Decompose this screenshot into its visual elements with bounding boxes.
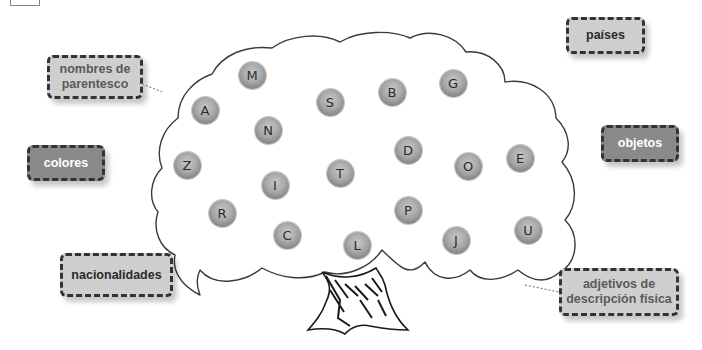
letter-ball-l[interactable]: L (344, 232, 371, 259)
letter-ball-n[interactable]: N (255, 117, 282, 144)
letter: B (388, 85, 397, 100)
letter-ball-o[interactable]: O (455, 153, 482, 180)
letter: G (448, 76, 458, 91)
letter: O (463, 159, 473, 174)
category-label: nombres de parentesco (50, 62, 140, 92)
letter-ball-d[interactable]: D (395, 137, 422, 164)
letter: S (326, 95, 334, 110)
letter-ball-b[interactable]: B (379, 79, 406, 106)
letter: T (336, 166, 344, 181)
letter-ball-s[interactable]: S (317, 89, 344, 116)
category-label: colores (44, 156, 88, 171)
letter: A (201, 103, 210, 118)
letter: C (282, 228, 291, 243)
letter-ball-c[interactable]: C (274, 222, 301, 249)
letter-ball-j[interactable]: J (443, 227, 470, 254)
category-box-paises[interactable]: países (566, 17, 645, 54)
letter: J (454, 233, 458, 248)
letter-ball-z[interactable]: Z (174, 152, 201, 179)
category-box-nacionalidades[interactable]: nacionalidades (60, 253, 173, 297)
letter-ball-u[interactable]: U (515, 217, 542, 244)
worksheet: nombres de parentesco colores nacionalid… (0, 0, 702, 350)
letter-ball-r[interactable]: R (209, 200, 236, 227)
letter: R (217, 206, 226, 221)
category-label: adjetivos de descripción física (562, 277, 676, 307)
letter-ball-m[interactable]: M (239, 62, 266, 89)
tree-trunk (308, 268, 408, 334)
letter-ball-a[interactable]: A (192, 97, 219, 124)
letter: I (273, 178, 277, 193)
letter: E (516, 151, 524, 166)
letter-ball-p[interactable]: P (395, 197, 422, 224)
category-label: objetos (618, 136, 662, 151)
category-box-objetos[interactable]: objetos (601, 125, 679, 162)
letter-ball-t[interactable]: T (327, 160, 354, 187)
letter: N (263, 123, 273, 138)
category-label: nacionalidades (71, 268, 161, 283)
category-label: países (586, 28, 625, 43)
letter: Z (183, 158, 192, 173)
letter: D (403, 143, 413, 158)
category-box-parentesco[interactable]: nombres de parentesco (47, 55, 143, 99)
letter-ball-i[interactable]: I (262, 172, 289, 199)
letter: M (246, 68, 257, 83)
category-box-adjetivos[interactable]: adjetivos de descripción física (559, 268, 679, 316)
letter: U (523, 223, 533, 238)
letter: P (404, 203, 412, 218)
category-box-colores[interactable]: colores (27, 145, 105, 181)
letter: L (353, 238, 360, 253)
letter-ball-e[interactable]: E (507, 145, 534, 172)
letter-ball-g[interactable]: G (440, 70, 467, 97)
